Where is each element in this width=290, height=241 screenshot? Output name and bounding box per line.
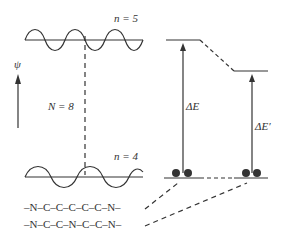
label-n4: n = 4: [114, 150, 138, 162]
label-dE: ΔE: [186, 100, 199, 112]
label-psi: ψ: [14, 58, 21, 70]
psi-arrowhead: [15, 74, 21, 84]
label-n5: n = 5: [114, 12, 138, 24]
chain-2: –N–C–C–N–C–C–N–: [24, 218, 121, 230]
label-dE-prime: ΔE′: [255, 120, 271, 132]
electron: [172, 169, 180, 177]
energy-level-diagram: n = 5 n = 4 ψ N = 8 ΔE ΔE′ –N–C–C–C–C–C–…: [0, 0, 290, 241]
chain-1: –N–C–C–C–C–C–N–: [24, 201, 121, 213]
label-N: N = 8: [48, 100, 74, 112]
level-dashed-connect: [200, 40, 234, 71]
